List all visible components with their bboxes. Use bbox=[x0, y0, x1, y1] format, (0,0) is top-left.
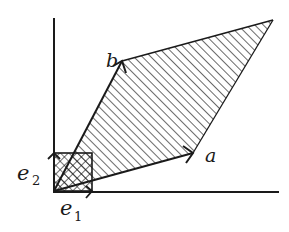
label-e1-subscript: 1 bbox=[74, 209, 82, 224]
label-a: a bbox=[205, 144, 216, 166]
parallelogram-diagram: a b e 2 e 1 bbox=[0, 0, 289, 232]
label-b: b bbox=[106, 49, 118, 71]
label-e2: e bbox=[17, 161, 29, 185]
label-e2-subscript: 2 bbox=[32, 173, 40, 188]
label-e1: e bbox=[60, 196, 72, 220]
